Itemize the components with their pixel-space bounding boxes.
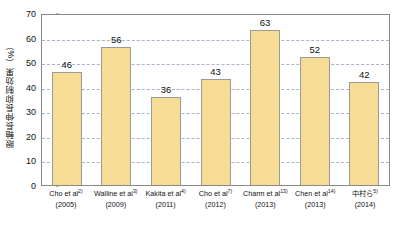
bars-container: 46563643635242 [42, 15, 389, 185]
bar-value-label: 56 [111, 35, 122, 45]
x-axis-tick-label: Kakita et al4)(2011) [141, 188, 191, 210]
bar-value-label: 52 [309, 45, 320, 55]
y-axis-tick-label: 50 [26, 59, 36, 68]
bar-slot: 43 [191, 15, 241, 185]
bar-value-label: 42 [359, 70, 370, 80]
bar[interactable]: 36 [151, 97, 181, 185]
bar[interactable]: 42 [349, 82, 379, 185]
x-axis-tick-labels: Cho et al2)(2005)Walline et al3)(2009)Ka… [41, 188, 390, 228]
y-axis-tick-label: 0 [31, 182, 36, 191]
y-axis-tick-label: 30 [26, 108, 36, 117]
y-axis-tick-label: 60 [26, 34, 36, 43]
x-axis-label-reference: 13) [280, 188, 288, 194]
x-axis-tick-label: Charm et al13)(2013) [240, 188, 290, 210]
bar[interactable]: 46 [52, 72, 82, 185]
x-axis-label-year: (2014) [340, 200, 390, 210]
x-axis-label-reference: 5) [373, 188, 378, 194]
bar-slot: 56 [92, 15, 142, 185]
x-axis-label-year: (2005) [41, 200, 91, 210]
y-axis-tick-label: 10 [26, 157, 36, 166]
bar[interactable]: 56 [101, 47, 131, 185]
y-axis-tick-label: 20 [26, 132, 36, 141]
y-axis-tick-label: 70 [26, 10, 36, 19]
x-axis-label-name: Walline et al3) [94, 189, 138, 198]
x-axis-tick-label: Cho et al2)(2005) [41, 188, 91, 210]
x-axis-label-year: (2012) [191, 200, 241, 210]
x-axis-tick-label: Cho et al7)(2012) [191, 188, 241, 210]
x-axis-label-reference: 3) [133, 188, 138, 194]
x-axis-label-name: Cho et al2) [49, 189, 82, 198]
bar-value-label: 63 [260, 18, 271, 28]
bar-slot: 63 [240, 15, 290, 185]
x-axis-label-name: 中村ら5) [352, 189, 378, 198]
bar-slot: 46 [42, 15, 92, 185]
bar-value-label: 46 [61, 60, 72, 70]
x-axis-label-reference: 14) [328, 188, 336, 194]
x-axis-label-name: Chen et al14) [295, 189, 335, 198]
x-axis-label-year: (2009) [91, 200, 141, 210]
x-axis-label-year: (2013) [290, 200, 340, 210]
x-axis-label-name: Charm et al13) [243, 189, 288, 198]
x-axis-label-name: Cho et al7) [199, 189, 232, 198]
x-axis-tick-label: Chen et al14)(2013) [290, 188, 340, 210]
x-axis-label-name: Kakita et al4) [146, 189, 186, 198]
x-axis-label-year: (2013) [240, 200, 290, 210]
bar[interactable]: 43 [201, 79, 231, 185]
x-axis-label-reference: 2) [78, 188, 83, 194]
x-axis-tick-label: Walline et al3)(2009) [91, 188, 141, 210]
y-axis-tick-label: 40 [26, 83, 36, 92]
bar-value-label: 36 [161, 85, 172, 95]
bar-value-label: 43 [210, 67, 221, 77]
y-axis-tick-labels: 706050403020100 [18, 14, 38, 186]
x-axis-label-reference: 7) [228, 188, 233, 194]
x-axis-tick-label: 中村ら5)(2014) [340, 188, 390, 210]
x-axis-label-reference: 4) [181, 188, 186, 194]
bar[interactable]: 63 [250, 30, 280, 185]
bar-slot: 42 [339, 15, 389, 185]
bar-slot: 36 [141, 15, 191, 185]
x-axis-label-year: (2011) [141, 200, 191, 210]
plot-area: 46563643635242 [41, 14, 390, 186]
bar[interactable]: 52 [300, 57, 330, 185]
bar-chart: 眼軸長伸長抑制効果（%） 706050403020100 46563643635… [0, 0, 402, 230]
bar-slot: 52 [290, 15, 340, 185]
